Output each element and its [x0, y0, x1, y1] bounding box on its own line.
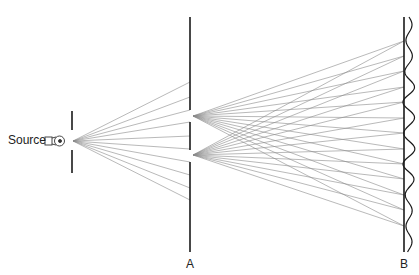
- bulb-icon: [45, 136, 65, 146]
- slit-rays: [193, 41, 404, 226]
- double-slit-diagram: [0, 0, 419, 275]
- barrier-b: [403, 17, 415, 252]
- barrier-a-label: A: [186, 257, 194, 271]
- barrier-b-label: B: [400, 257, 408, 271]
- source-rays: [73, 82, 190, 200]
- source-label: Source: [8, 133, 46, 147]
